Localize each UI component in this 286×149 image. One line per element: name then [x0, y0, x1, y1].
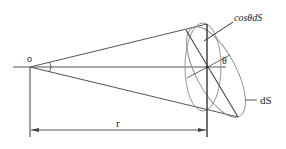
center-point — [206, 66, 209, 69]
area-ellipse — [175, 18, 257, 125]
cone-upper-edge — [30, 24, 207, 67]
angle-label: θ — [222, 55, 227, 66]
projected-area-label: cosθdS — [234, 12, 262, 23]
area-label: dS — [260, 94, 272, 106]
solid-angle-diagram: o r θ cosθdS dS — [0, 0, 286, 149]
surface-diagonal-line — [186, 30, 238, 117]
arrowhead-right-icon — [198, 128, 206, 132]
origin-label: o — [27, 53, 32, 64]
arrowhead-left-icon — [31, 128, 39, 132]
distance-label: r — [116, 117, 120, 129]
